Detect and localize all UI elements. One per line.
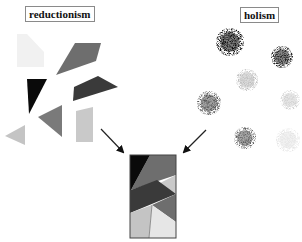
holism-label: holism	[240, 7, 279, 23]
medium-blob	[197, 91, 221, 115]
dark-parallelogram-shape	[73, 76, 118, 101]
light-blob	[236, 69, 258, 91]
dark-blob	[271, 46, 293, 68]
light-quadrilateral-shape	[76, 107, 93, 142]
reductionism-label: reductionism	[25, 6, 95, 22]
holism-blobs	[197, 28, 300, 152]
light-triangle-shape	[5, 125, 25, 145]
black-triangle-shape	[27, 79, 47, 114]
reductionism-shapes	[5, 34, 118, 145]
diagram: reductionism holism	[0, 0, 302, 242]
right-arrow-icon	[184, 130, 206, 152]
darkest-blob	[216, 28, 244, 56]
gray-quadrilateral-shape	[56, 43, 101, 75]
arrows	[101, 129, 206, 152]
very-light-blob	[280, 90, 300, 110]
gray-triangle-shape	[38, 105, 62, 137]
left-arrow-icon	[101, 129, 123, 152]
faint-pentagon-shape	[17, 34, 44, 67]
medium-gray-blob	[234, 127, 256, 149]
composite-rectangle	[130, 155, 176, 238]
faint-blob	[276, 128, 300, 152]
diagram-canvas	[0, 0, 302, 242]
